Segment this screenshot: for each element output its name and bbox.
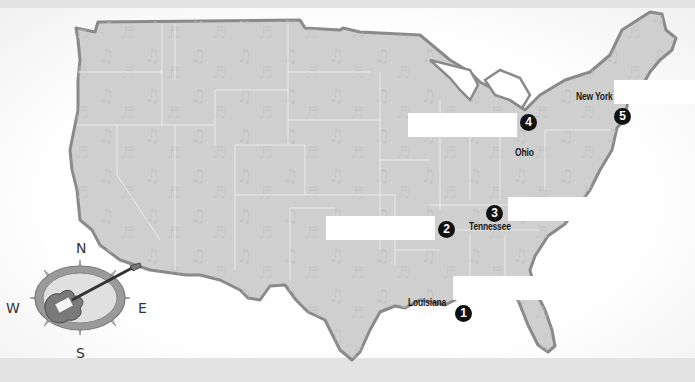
compass-east: E <box>138 300 147 316</box>
answer-box-4[interactable] <box>408 113 517 137</box>
state-label-louisiana: Louisiana <box>408 297 446 308</box>
state-label-ohio: Ohio <box>515 147 534 158</box>
compass-rose <box>0 230 180 360</box>
state-label-new-york: New York <box>576 91 613 102</box>
answer-box-3[interactable] <box>508 197 618 221</box>
compass-north: N <box>76 240 86 256</box>
marker-1: 1 <box>455 305 472 322</box>
marker-4: 4 <box>520 114 537 131</box>
compass-south: S <box>76 345 85 361</box>
answer-box-1[interactable] <box>453 276 561 300</box>
marker-2: 2 <box>438 221 455 238</box>
answer-box-5[interactable] <box>614 80 695 104</box>
compass-rose-graphic <box>0 230 180 360</box>
marker-5: 5 <box>614 108 631 125</box>
answer-box-2[interactable] <box>326 216 435 240</box>
state-label-tennessee: Tennessee <box>469 221 511 232</box>
marker-3: 3 <box>486 205 503 222</box>
compass-west: W <box>6 300 20 316</box>
